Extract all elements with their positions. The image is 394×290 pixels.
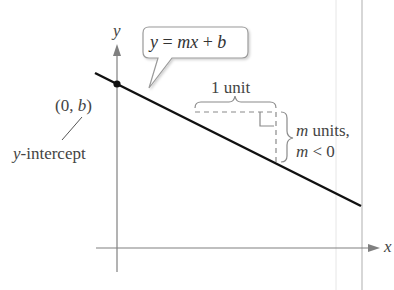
y-intercept-label: y-intercept bbox=[13, 145, 86, 162]
run-brace bbox=[195, 96, 276, 108]
x-axis-label: x bbox=[384, 238, 392, 255]
equation-text: y = mx + b bbox=[150, 33, 226, 51]
x-axis bbox=[96, 244, 380, 252]
y-axis-label: y bbox=[113, 22, 121, 39]
slope-condition-text: < 0 bbox=[308, 142, 335, 161]
equation-var-y: y bbox=[150, 32, 158, 52]
intercept-leader-line bbox=[62, 117, 82, 140]
intercept-text: -intercept bbox=[21, 144, 86, 163]
rise-brace bbox=[281, 112, 293, 162]
equation-equals: = bbox=[158, 32, 177, 52]
rise-label-line1: m units, bbox=[296, 122, 350, 139]
point-close: ) bbox=[86, 96, 92, 115]
slope-intercept-diagram: y x y = mx + b 1 unit m units, m < 0 (0,… bbox=[0, 0, 394, 290]
right-angle-marker bbox=[260, 112, 274, 126]
rise-var-m: m bbox=[296, 121, 308, 140]
run-label: 1 unit bbox=[211, 79, 250, 96]
y-axis bbox=[113, 44, 121, 272]
y-axis-arrow-icon bbox=[113, 44, 121, 56]
slope-var-m: m bbox=[296, 142, 308, 161]
rise-units-text: units, bbox=[308, 121, 350, 140]
intercept-var-y: y bbox=[13, 144, 21, 163]
point-b: b bbox=[78, 96, 87, 115]
y-intercept-point bbox=[113, 80, 120, 87]
equation-b: b bbox=[217, 32, 226, 52]
point-open: (0, bbox=[55, 96, 78, 115]
equation-plus: + bbox=[198, 32, 217, 52]
intercept-point-label: (0, b) bbox=[55, 97, 92, 114]
rise-label-line2: m < 0 bbox=[296, 143, 335, 160]
x-axis-arrow-icon bbox=[368, 244, 380, 252]
equation-mx: mx bbox=[177, 32, 198, 52]
slope-triangle bbox=[195, 112, 276, 162]
